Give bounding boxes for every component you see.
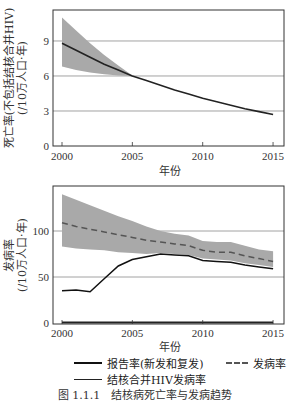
svg-text:(/10万人口·年): (/10万人口·年) <box>15 41 29 115</box>
legend: 报告率(新发和复发) 发病率 结核合并HIV发病率 <box>74 355 286 387</box>
y-tick-label: 0 <box>44 317 50 329</box>
x-tick-label: 2005 <box>121 150 144 162</box>
bottom-x-axis-label: 年份 <box>159 340 181 354</box>
legend-label-reported: 报告率(新发和复发) <box>107 355 204 371</box>
svg-text:发病率: 发病率 <box>2 239 16 272</box>
legend-label-tbhiv: 结核合并HIV发病率 <box>107 371 206 387</box>
top-y-axis: 0369 <box>44 35 50 152</box>
solid-line-swatch-icon <box>74 362 102 364</box>
svg-text:(/10万人口·年): (/10万人口·年) <box>15 218 29 292</box>
dashed-line-swatch-icon <box>226 362 248 364</box>
figure-caption: 图 1.1.1 结核病死亡率与发病趋势 <box>0 386 290 402</box>
incidence-chart: 2000200520102015 050100 年份 发病率 (/10万人口·年… <box>2 186 285 354</box>
y-tick-label: 50 <box>38 271 50 283</box>
legend-label-incidence: 发病率 <box>253 355 286 371</box>
x-tick-label: 2015 <box>262 150 285 162</box>
top-x-axis-label: 年份 <box>159 164 181 178</box>
y-tick-label: 100 <box>33 225 50 237</box>
x-tick-label: 2015 <box>262 327 285 339</box>
y-tick-label: 9 <box>44 35 50 47</box>
x-tick-label: 2010 <box>192 327 215 339</box>
x-tick-label: 2000 <box>51 150 74 162</box>
thin-line-swatch-icon <box>74 379 102 380</box>
y-tick-label: 6 <box>44 70 50 82</box>
y-tick-label: 3 <box>44 105 50 117</box>
bottom-y-axis: 050100 <box>33 225 50 329</box>
legend-item-reported: 报告率(新发和复发) 发病率 <box>74 355 286 371</box>
top-uncertainty-band <box>62 18 132 76</box>
x-tick-label: 2010 <box>192 150 215 162</box>
x-tick-label: 2000 <box>51 327 74 339</box>
y-tick-label: 0 <box>44 140 50 152</box>
mortality-chart: 2000200520102015 0369 年份 死亡率(不包括结核合并HIV)… <box>2 8 285 178</box>
svg-text:死亡率(不包括结核合并HIV): 死亡率(不包括结核合并HIV) <box>2 8 16 148</box>
bottom-y-axis-label: 发病率 (/10万人口·年) <box>2 218 29 292</box>
legend-item-tbhiv: 结核合并HIV发病率 <box>74 371 286 387</box>
x-tick-label: 2005 <box>121 327 144 339</box>
top-plot-frame <box>53 10 284 146</box>
top-x-axis: 2000200520102015 <box>51 142 285 162</box>
top-y-axis-label: 死亡率(不包括结核合并HIV) (/10万人口·年) <box>2 8 29 148</box>
